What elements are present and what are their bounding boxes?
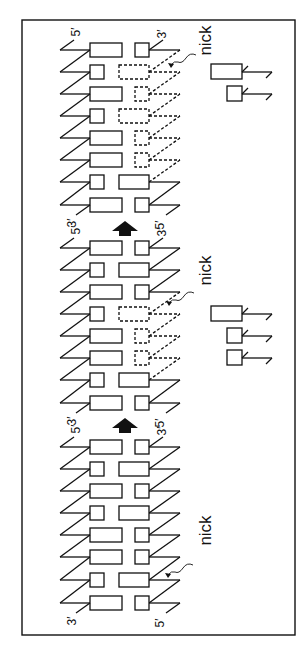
right-strand-segment (119, 263, 149, 277)
right-strand-end-tail (166, 205, 180, 215)
displaced-strand-segment (135, 131, 149, 145)
displaced-strand-diagonal (149, 336, 180, 358)
left-strand-end-tail (76, 603, 90, 613)
displaced-strand-diagonal (149, 138, 180, 160)
nick-label: nick (197, 515, 214, 545)
left-strand-diagonal (60, 447, 90, 469)
left-strand-segment (90, 528, 122, 542)
displaced-strand-segment (135, 351, 149, 365)
released-fragment-tail (242, 88, 248, 94)
right-strand-diagonal (149, 469, 180, 491)
five-prime-label: 5′ (154, 619, 166, 628)
released-fragment-tail (242, 330, 248, 336)
left-strand-segment (90, 506, 104, 520)
right-strand-segment (135, 484, 149, 498)
left-strand-diagonal (60, 535, 90, 557)
left-strand-segment (90, 396, 122, 410)
right-strand-segment (135, 550, 149, 564)
left-strand-diagonal (60, 50, 90, 72)
left-strand-diagonal (60, 138, 90, 160)
five-prime-label: 5′ (70, 425, 82, 434)
right-strand-segment (135, 528, 149, 542)
five-prime-label: 5′ (70, 226, 82, 235)
left-strand-segment (90, 285, 122, 299)
figure-frame (22, 20, 295, 635)
three-prime-label: 3′ (156, 427, 168, 436)
right-strand-diagonal (149, 248, 180, 270)
right-strand-diagonal (149, 535, 180, 557)
left-strand-segment (90, 550, 122, 564)
nick-arrowhead-icon (165, 573, 171, 578)
right-strand-diagonal (149, 447, 180, 469)
left-strand-segment (90, 329, 122, 343)
left-strand-segment (90, 484, 122, 498)
nick-arrowhead-icon (168, 63, 174, 68)
left-strand-diagonal (60, 469, 90, 491)
released-fragment-tail (242, 352, 248, 358)
left-strand-diagonal (60, 580, 90, 603)
displaced-strand-diagonal (149, 50, 180, 72)
left-strand-diagonal (60, 72, 90, 94)
right-strand-segment (119, 573, 149, 587)
right-strand-diagonal (149, 557, 180, 580)
left-strand-segment (90, 440, 122, 454)
released-fragment-tail (266, 314, 272, 320)
displaced-strand-segment (119, 307, 149, 321)
right-strand-segment (135, 396, 149, 410)
diagram-canvas (0, 0, 306, 662)
displaced-strand-diagonal (149, 314, 180, 336)
released-fragment-tail (266, 72, 272, 78)
left-strand-end-tail (60, 238, 74, 248)
right-strand-diagonal (149, 270, 180, 292)
released-fragment (211, 64, 242, 79)
left-strand-segment (90, 131, 122, 145)
left-strand-segment (90, 87, 122, 101)
left-strand-diagonal (60, 513, 90, 535)
right-strand-diagonal (149, 380, 180, 403)
right-strand-end-tail (166, 603, 180, 613)
nick-pointer-line (170, 292, 194, 302)
displaced-strand-diagonal (149, 116, 180, 138)
left-strand-segment (90, 596, 122, 610)
nick-arrowhead-icon (166, 301, 172, 306)
released-fragment-tail (266, 336, 272, 342)
left-strand-segment (90, 241, 122, 255)
five-prime-label: 5′ (70, 28, 82, 37)
three-prime-label: 3′ (156, 228, 168, 237)
left-strand-segment (90, 65, 104, 79)
left-strand-diagonal (60, 336, 90, 358)
right-strand-segment (135, 198, 149, 212)
displaced-strand-diagonal (149, 72, 180, 94)
released-fragment-tail (266, 358, 272, 364)
right-strand-segment (135, 596, 149, 610)
left-strand-segment (90, 175, 104, 189)
left-strand-segment (90, 153, 122, 167)
left-strand-end-tail (60, 40, 74, 50)
left-strand-segment (90, 109, 104, 123)
displaced-strand-segment (135, 153, 149, 167)
left-strand-diagonal (60, 491, 90, 513)
released-fragment (211, 306, 242, 321)
left-strand-end-tail (76, 403, 90, 413)
displaced-strand-diagonal (149, 94, 180, 116)
left-strand-diagonal (60, 270, 90, 292)
left-strand-segment (90, 43, 122, 57)
left-strand-diagonal (60, 248, 90, 270)
right-strand-segment (135, 440, 149, 454)
released-fragment (227, 86, 242, 101)
right-strand-diagonal (149, 580, 180, 603)
right-strand-segment (119, 506, 149, 520)
transition-arrow-icon (112, 418, 138, 433)
right-strand-segment (119, 175, 149, 189)
displaced-strand-diagonal (149, 292, 180, 314)
left-strand-segment (90, 462, 104, 476)
left-strand-segment (90, 307, 104, 321)
left-strand-segment (90, 373, 104, 387)
displaced-strand-diagonal (149, 160, 180, 182)
released-fragment-tail (242, 308, 248, 314)
left-strand-end-tail (76, 205, 90, 215)
right-strand-segment (135, 285, 149, 299)
nick-label: nick (197, 25, 214, 55)
left-strand-segment (90, 198, 122, 212)
right-strand-diagonal (149, 182, 180, 205)
